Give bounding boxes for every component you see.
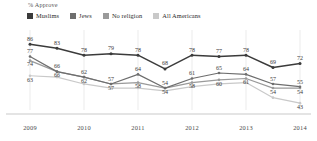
x-axis-tick-label: 2011 <box>131 124 144 131</box>
data-label: 62 <box>81 78 87 84</box>
line-chart-svg: 8683787978687877786972776662576454616564… <box>0 26 317 121</box>
x-axis-labels: 200920102011201220132014 <box>0 124 317 138</box>
data-label: 57 <box>108 85 114 91</box>
data-point <box>245 54 248 57</box>
legend-label: No religion <box>112 12 142 19</box>
legend-item-jews[interactable]: Jews <box>70 12 92 19</box>
chart-legend: MuslimsJewsNo religionAll Americans <box>27 12 212 19</box>
data-point <box>137 54 140 57</box>
legend-swatch-icon <box>153 13 159 19</box>
data-label: 65 <box>216 65 222 71</box>
data-label: 86 <box>27 36 33 42</box>
data-point <box>272 83 275 86</box>
data-label: 57 <box>108 76 114 82</box>
legend-item-muslims[interactable]: Muslims <box>27 12 59 19</box>
data-point <box>56 47 59 50</box>
data-label: 55 <box>297 79 303 85</box>
legend-label: Jews <box>79 12 92 19</box>
y-axis-caption: % Approve <box>28 1 58 8</box>
data-label: 69 <box>270 59 276 65</box>
data-label: 62 <box>81 69 87 75</box>
data-label: 58 <box>135 83 141 89</box>
x-axis-tick-label: 2013 <box>239 124 253 131</box>
data-point <box>218 55 221 58</box>
data-label: 77 <box>216 48 222 54</box>
data-point <box>272 96 275 99</box>
legend-label: All Americans <box>162 12 200 19</box>
chart-plot-area: 8683787978687877786972776662576454616564… <box>0 26 317 121</box>
data-point <box>191 54 194 57</box>
data-label: 78 <box>243 47 249 53</box>
data-label: 78 <box>189 47 195 53</box>
data-label: 83 <box>54 40 60 46</box>
data-point <box>164 67 167 70</box>
x-axis-tick-label: 2012 <box>185 124 199 131</box>
data-label: 68 <box>162 60 168 66</box>
data-point <box>299 62 302 65</box>
data-label: 77 <box>27 48 33 54</box>
x-axis-tick-label: 2009 <box>23 124 37 131</box>
data-label: 61 <box>243 79 249 85</box>
data-label: 57 <box>270 76 276 82</box>
data-point <box>299 85 302 88</box>
data-label: 72 <box>297 55 303 61</box>
data-point <box>218 72 221 75</box>
data-point <box>191 77 194 80</box>
data-label: 60 <box>216 81 222 87</box>
data-label: 54 <box>270 89 276 95</box>
x-axis-tick-label: 2014 <box>293 124 307 131</box>
legend-item-no-religion[interactable]: No religion <box>103 12 142 19</box>
data-point <box>29 43 32 46</box>
data-point <box>110 52 113 55</box>
data-label: 54 <box>162 89 168 95</box>
data-label: 43 <box>297 104 303 110</box>
data-label: 54 <box>297 89 303 95</box>
legend-swatch-icon <box>103 13 109 19</box>
data-label: 63 <box>27 77 33 83</box>
legend-item-all-americans[interactable]: All Americans <box>153 12 200 19</box>
data-label: 66 <box>54 63 60 69</box>
data-label: 74 <box>27 61 33 67</box>
data-label: 78 <box>135 47 141 53</box>
data-point <box>272 66 275 69</box>
data-point <box>245 73 248 76</box>
data-label: 64 <box>243 66 249 72</box>
data-label: 54 <box>162 80 168 86</box>
data-label: 79 <box>108 45 114 51</box>
x-axis-tick-label: 2010 <box>77 124 91 131</box>
chart-container: % Approve MuslimsJewsNo religionAll Amer… <box>0 0 317 141</box>
data-label: 78 <box>81 47 87 53</box>
data-point <box>29 55 32 58</box>
data-label: 64 <box>135 66 141 72</box>
data-label: 66 <box>54 72 60 78</box>
data-point <box>83 54 86 57</box>
legend-swatch-icon <box>27 13 33 19</box>
data-label: 61 <box>189 70 195 76</box>
legend-swatch-icon <box>70 13 76 19</box>
data-label: 58 <box>189 83 195 89</box>
legend-label: Muslims <box>36 12 59 19</box>
data-point <box>137 73 140 76</box>
